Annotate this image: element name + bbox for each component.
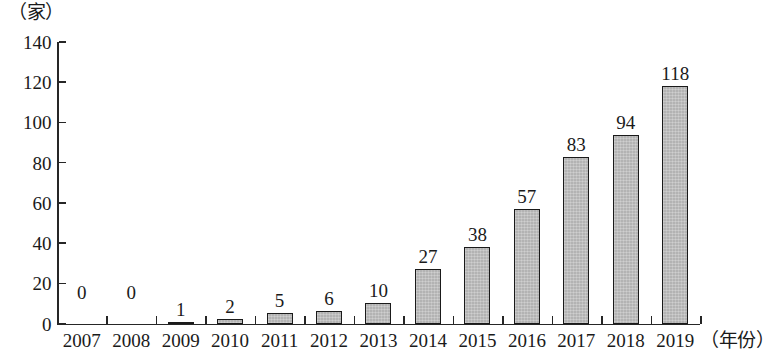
- y-axis-tick-label: 120: [23, 73, 52, 92]
- bar-value-label: 5: [275, 291, 285, 310]
- bar-value-label: 94: [616, 113, 635, 132]
- bar-slot: 38: [453, 42, 502, 324]
- x-axis-tick-label: 2014: [409, 330, 447, 352]
- bar-slot: 57: [502, 42, 551, 324]
- plot-area: 020406080100120140 001256102738578394118: [57, 42, 700, 325]
- bar[interactable]: 6: [316, 311, 342, 323]
- bars-layer: 001256102738578394118: [57, 42, 700, 325]
- bar-value-label: 57: [517, 187, 536, 206]
- x-axis-tick-label: 2015: [458, 330, 496, 352]
- bar[interactable]: 57: [514, 209, 540, 324]
- y-axis-tick-label: 0: [42, 314, 52, 333]
- x-axis-tick-label: 2012: [310, 330, 348, 352]
- x-axis-tick-labels: 2007200820092010201120122013201420152016…: [57, 330, 700, 356]
- bar-value-label: 10: [369, 281, 388, 300]
- bar-value-label: 83: [567, 135, 586, 154]
- bar[interactable]: 118: [662, 86, 688, 323]
- bar-value-label: 6: [324, 289, 334, 308]
- bar-slot: 10: [354, 42, 403, 324]
- bar-slot: 0: [106, 42, 155, 324]
- bar-slot: 94: [601, 42, 650, 324]
- y-axis-tick-label: 20: [33, 274, 52, 293]
- x-axis-tick-label: 2018: [607, 330, 645, 352]
- bar[interactable]: 1: [168, 322, 194, 324]
- bar[interactable]: 94: [613, 135, 639, 324]
- bar-slot: 5: [255, 42, 304, 324]
- bar-value-label: 38: [468, 225, 487, 244]
- bar-slot: 83: [552, 42, 601, 324]
- x-axis-tick-label: 2010: [211, 330, 249, 352]
- bar-value-label: 1: [176, 300, 186, 319]
- y-axis-tick-label: 40: [33, 234, 52, 253]
- bar-slot: 118: [651, 42, 700, 324]
- bar[interactable]: 38: [464, 247, 490, 323]
- y-axis-tick-label: 100: [23, 113, 52, 132]
- y-axis-tick-label: 60: [33, 193, 52, 212]
- bar-slot: 2: [205, 42, 254, 324]
- bar[interactable]: 10: [365, 303, 391, 323]
- bar[interactable]: 27: [415, 269, 441, 323]
- x-axis-tick-label: 2009: [162, 330, 200, 352]
- bar-value-label: 2: [225, 297, 235, 316]
- bar[interactable]: 2: [217, 319, 243, 323]
- y-axis-tick-label: 140: [23, 33, 52, 52]
- x-axis-tick-label: 2016: [508, 330, 546, 352]
- x-axis-tick-label: 2011: [261, 330, 298, 352]
- bar-value-label: 0: [126, 283, 136, 302]
- bar-value-label: 27: [418, 247, 437, 266]
- bar-slot: 6: [304, 42, 353, 324]
- x-axis-tick: [700, 316, 702, 324]
- x-axis-tick-label: 2007: [63, 330, 101, 352]
- bar-chart-figure: （家） 020406080100120140 00125610273857839…: [0, 0, 768, 356]
- bar[interactable]: 83: [563, 157, 589, 324]
- y-axis-title: （家）: [8, 2, 64, 24]
- x-axis-tick-label: 2008: [112, 330, 150, 352]
- bar-slot: 1: [156, 42, 205, 324]
- y-axis-tick-label: 80: [33, 153, 52, 172]
- bar-value-label: 0: [77, 283, 87, 302]
- bar[interactable]: 5: [267, 313, 293, 323]
- bar-slot: 27: [403, 42, 452, 324]
- bar-slot: 0: [57, 42, 106, 324]
- x-axis-tick-label: 2013: [360, 330, 398, 352]
- bar-value-label: 118: [661, 64, 689, 83]
- x-axis-title: （年份）: [700, 330, 768, 352]
- x-axis-tick-label: 2017: [557, 330, 595, 352]
- x-axis-tick-label: 2019: [656, 330, 694, 352]
